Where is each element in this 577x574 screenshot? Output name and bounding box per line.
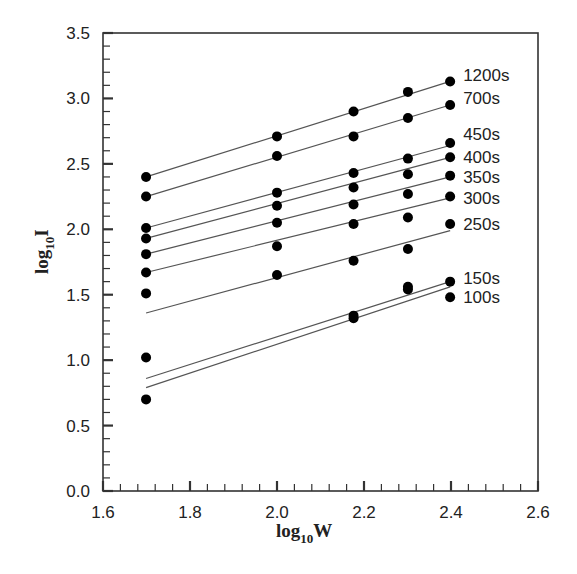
y-tick-labels: 0.00.51.01.52.02.53.03.5 xyxy=(66,24,90,501)
fit-line xyxy=(146,287,450,388)
y-tick-label: 0.5 xyxy=(66,417,90,436)
x-tick-label: 1.8 xyxy=(178,503,202,522)
data-point xyxy=(403,213,413,223)
data-point xyxy=(445,192,455,202)
series-label: 450s xyxy=(463,125,500,144)
y-tick-label: 1.5 xyxy=(66,286,90,305)
y-tick-label: 3.5 xyxy=(66,24,90,43)
x-tick-label: 2.2 xyxy=(352,503,376,522)
data-point xyxy=(349,199,359,209)
data-point xyxy=(272,218,282,228)
data-point xyxy=(403,244,413,254)
data-point xyxy=(141,249,151,259)
data-point xyxy=(141,233,151,243)
data-point xyxy=(141,172,151,182)
series-label: 150s xyxy=(463,269,500,288)
data-point xyxy=(403,169,413,179)
data-point xyxy=(272,201,282,211)
y-axis-title: log10I xyxy=(31,229,57,274)
fit-line xyxy=(146,282,450,379)
y-tick-label: 2.5 xyxy=(66,155,90,174)
x-tick-label: 2.4 xyxy=(439,503,463,522)
data-point xyxy=(403,87,413,97)
fit-line xyxy=(146,157,450,238)
data-point xyxy=(272,131,282,141)
data-point xyxy=(349,219,359,229)
x-axis-title: log10W xyxy=(276,520,332,546)
data-point xyxy=(272,188,282,198)
y-tick-label: 3.0 xyxy=(66,89,90,108)
data-point xyxy=(141,192,151,202)
series-label: 250s xyxy=(463,215,500,234)
series-label: 350s xyxy=(463,168,500,187)
data-point xyxy=(141,267,151,277)
data-point xyxy=(349,182,359,192)
fit-line xyxy=(146,81,450,177)
data-point xyxy=(445,277,455,287)
data-point xyxy=(272,270,282,280)
data-point xyxy=(272,151,282,161)
data-point xyxy=(403,154,413,164)
data-points xyxy=(141,76,455,404)
data-point xyxy=(445,100,455,110)
data-point xyxy=(445,76,455,86)
y-tick-label: 0.0 xyxy=(66,482,90,501)
data-point xyxy=(445,138,455,148)
x-tick-label: 2.6 xyxy=(526,503,550,522)
series-label: 400s xyxy=(463,148,500,167)
data-point xyxy=(445,152,455,162)
fit-lines xyxy=(146,81,450,387)
data-point xyxy=(445,219,455,229)
data-point xyxy=(403,189,413,199)
series-label: 700s xyxy=(463,89,500,108)
data-point xyxy=(272,241,282,251)
series-label: 300s xyxy=(463,189,500,208)
data-point xyxy=(141,223,151,233)
data-point xyxy=(141,288,151,298)
series-labels: 1200s700s450s400s350s300s250s150s100s xyxy=(463,66,509,307)
data-point xyxy=(445,292,455,302)
series-label: 1200s xyxy=(463,66,509,85)
data-point xyxy=(403,113,413,123)
chart: 1200s700s450s400s350s300s250s150s100s 1.… xyxy=(0,0,577,574)
y-tick-label: 1.0 xyxy=(66,351,90,370)
data-point xyxy=(349,168,359,178)
data-point xyxy=(349,313,359,323)
x-tick-label: 1.6 xyxy=(91,503,115,522)
data-point xyxy=(141,353,151,363)
fit-line xyxy=(146,198,450,273)
series-label: 100s xyxy=(463,288,500,307)
data-point xyxy=(141,394,151,404)
data-point xyxy=(445,171,455,181)
data-point xyxy=(349,107,359,117)
y-tick-label: 2.0 xyxy=(66,220,90,239)
data-point xyxy=(403,284,413,294)
data-point xyxy=(349,131,359,141)
data-point xyxy=(349,256,359,266)
